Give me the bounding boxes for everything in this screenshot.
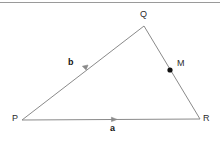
vertex-label-r: R (203, 114, 210, 123)
vertex-label-p: P (12, 114, 18, 123)
edge-pq (22, 26, 144, 120)
triangle-diagram-canvas (0, 0, 220, 143)
vertex-label-q: Q (140, 10, 147, 19)
point-label-m: M (177, 59, 185, 68)
vector-label-a: a (110, 124, 115, 133)
geometry-figure: P Q R b a M (0, 0, 220, 143)
edge-qr (144, 26, 200, 119)
vector-label-b: b (68, 58, 74, 67)
edge-pr (22, 119, 200, 120)
point-m-dot (167, 67, 172, 72)
vector-a-arrowhead (111, 117, 117, 121)
